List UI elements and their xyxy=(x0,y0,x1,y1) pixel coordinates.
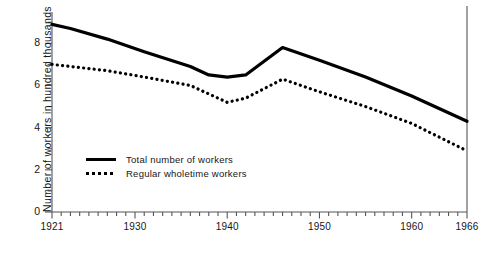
x-tick-label-1921: 1921 xyxy=(32,221,72,232)
x-tick-label-1950: 1950 xyxy=(299,221,339,232)
y-tick-label-2: 2 xyxy=(24,163,40,175)
legend-item-wholetime: Regular wholetime workers xyxy=(86,166,247,180)
legend-solid-line-icon xyxy=(86,152,116,166)
x-tick-label-1930: 1930 xyxy=(115,221,155,232)
legend-label-total: Total number of workers xyxy=(126,154,233,165)
chart-legend: Total number of workers Regular wholetim… xyxy=(86,152,247,180)
y-tick-label-6: 6 xyxy=(24,78,40,90)
x-tick-label-1960: 1960 xyxy=(392,221,432,232)
y-tick-label-8: 8 xyxy=(24,36,40,48)
series-line-wholetime xyxy=(52,64,467,150)
y-tick-label-4: 4 xyxy=(24,121,40,133)
chart-tick-marks xyxy=(45,22,467,218)
chart-axes xyxy=(52,6,467,212)
y-tick-label-0: 0 xyxy=(24,205,40,217)
line-chart: Number of workers in hundred thousands 0… xyxy=(0,0,497,266)
x-tick-label-1940: 1940 xyxy=(207,221,247,232)
legend-label-wholetime: Regular wholetime workers xyxy=(126,168,247,179)
y-axis-title: Number of workers in hundred thousands xyxy=(41,0,53,224)
legend-item-total: Total number of workers xyxy=(86,152,247,166)
legend-dotted-line-icon xyxy=(86,166,116,180)
x-tick-label-1966: 1966 xyxy=(447,221,487,232)
chart-series-group xyxy=(52,24,467,151)
